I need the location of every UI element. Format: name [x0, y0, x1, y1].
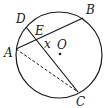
diagram-canvas: D E B A x O C: [0, 0, 110, 108]
label-o: O: [57, 38, 67, 52]
label-x: x: [44, 37, 51, 51]
label-e: E: [34, 24, 44, 38]
label-d: D: [15, 12, 26, 26]
label-b: B: [85, 3, 95, 17]
circle: [16, 12, 102, 98]
geometry-diagram: D E B A x O C: [0, 0, 110, 108]
chord-ac-dashed: [16, 49, 78, 92]
chord-dc: [26, 27, 78, 92]
label-c: C: [76, 95, 85, 108]
label-a: A: [3, 46, 13, 60]
center-point: [59, 53, 62, 56]
